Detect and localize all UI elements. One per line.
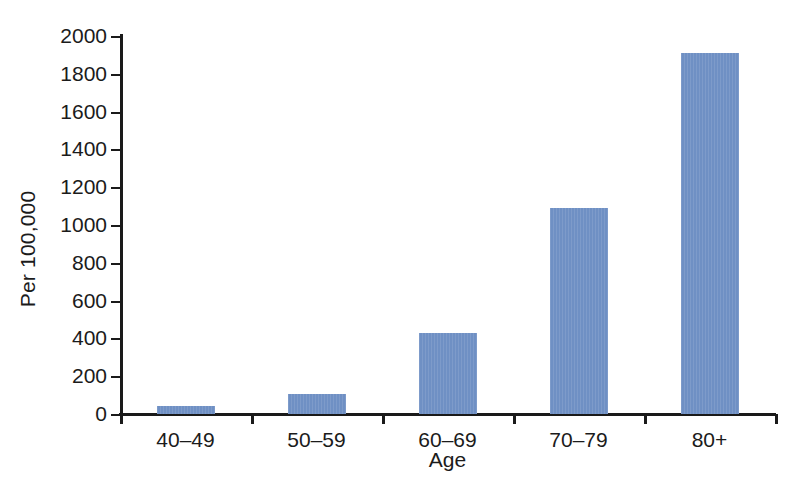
y-tick-label: 1200 [60, 175, 107, 199]
y-tick-mark [111, 414, 120, 416]
y-tick-label: 1400 [60, 137, 107, 161]
x-tick-mark [251, 414, 254, 424]
y-tick-label: 800 [72, 251, 107, 275]
y-tick-mark [111, 149, 120, 151]
y-tick-label: 1600 [60, 100, 107, 124]
x-tick-mark [382, 414, 385, 424]
y-tick-mark [111, 112, 120, 114]
y-tick-mark [111, 338, 120, 340]
y-tick-mark [111, 74, 120, 76]
y-tick-label: 400 [72, 326, 107, 350]
bar [157, 406, 215, 414]
y-tick-label: 1800 [60, 62, 107, 86]
x-tick-mark [644, 414, 647, 424]
x-axis-title: Age [120, 448, 775, 472]
plot-area: 0200400600800100012001400160018002000 40… [120, 36, 775, 414]
bar [288, 394, 346, 414]
bar [419, 333, 477, 414]
y-tick-label: 2000 [60, 24, 107, 48]
y-tick-mark [111, 187, 120, 189]
y-tick-mark [111, 263, 120, 265]
y-tick-mark [111, 301, 120, 303]
y-axis-title: Per 100,000 [0, 0, 56, 498]
y-tick-label: 0 [95, 402, 107, 426]
bar [681, 53, 739, 414]
x-tick-mark [775, 414, 778, 424]
y-tick-label: 1000 [60, 213, 107, 237]
y-tick-label: 600 [72, 289, 107, 313]
x-tick-mark [120, 414, 123, 424]
bar [550, 208, 608, 414]
y-tick-label: 200 [72, 364, 107, 388]
y-tick-mark [111, 36, 120, 38]
y-tick-mark [111, 225, 120, 227]
x-tick-mark [513, 414, 516, 424]
y-tick-mark [111, 376, 120, 378]
bar-chart-figure: Per 100,000 0200400600800100012001400160… [0, 0, 794, 498]
